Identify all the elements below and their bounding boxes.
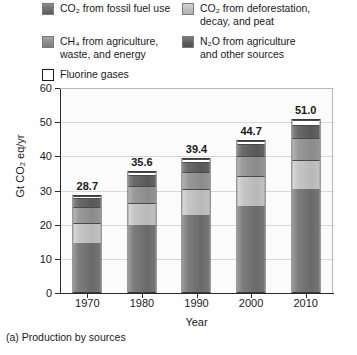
bar-total-label: 44.7 [240,125,261,137]
bar-group: 51.0 [278,88,333,293]
bars-layer: 28.7197035.6198039.4199044.7200051.02010 [60,88,333,293]
bar-segment[interactable] [183,172,210,189]
bar-segment[interactable] [128,225,155,292]
bar-segment[interactable] [74,198,101,207]
legend-item-co2-deforestation[interactable]: CO₂ from deforestation, decay, and peat [182,2,350,27]
x-axis-tick-label: 1980 [130,297,154,309]
bar-group: 44.7 [224,88,279,293]
y-axis-tick-label: 40 [40,150,52,162]
legend-item-ch4-agriculture[interactable]: CH₄ from agriculture, waste, and energy [42,35,182,60]
figure-panel: CO₂ from fossil fuel use CO₂ from defore… [0,0,357,355]
y-axis-tick-label: 0 [46,287,52,299]
bar-segment[interactable] [74,207,101,222]
x-axis-tick-label: 2000 [239,297,263,309]
x-axis-label: Year [60,316,333,328]
y-axis-tick-label: 60 [40,82,52,94]
bar-segment[interactable] [292,189,319,292]
legend-row-2: CH₄ from agriculture, waste, and energy … [42,35,354,60]
legend-item-n2o-agriculture[interactable]: N₂O from agriculture and other sources [182,35,350,60]
bar-segment[interactable] [183,215,210,292]
y-axis-tick-label: 20 [40,219,52,231]
y-axis-tick-label: 50 [40,116,52,128]
bar-segment[interactable] [238,156,265,176]
x-axis-tick-label: 1970 [75,297,99,309]
legend-label-co2-fossil: CO₂ from fossil fuel use [60,2,170,15]
stacked-bar[interactable] [182,158,211,293]
bar-segment[interactable] [238,144,265,156]
bar-segment[interactable] [292,138,319,160]
stacked-bar[interactable] [73,195,102,293]
chart-legend: CO₂ from fossil fuel use CO₂ from defore… [42,2,354,85]
y-axis-tick-label: 10 [40,253,52,265]
bar-total-label: 28.7 [77,180,98,192]
legend-row-1: CO₂ from fossil fuel use CO₂ from defore… [42,2,354,27]
legend-row-3: Fluorine gases [42,68,354,81]
stacked-bar[interactable] [291,119,320,293]
bar-group: 39.4 [169,88,224,293]
bar-total-label: 39.4 [186,143,207,155]
stacked-bar[interactable] [237,140,266,293]
bar-segment[interactable] [292,125,319,139]
bar-segment[interactable] [238,176,265,206]
y-axis-tick [55,293,61,294]
legend-swatch-n2o-icon [182,36,194,48]
bar-segment[interactable] [74,223,101,244]
bar-total-label: 51.0 [295,104,316,116]
bar-segment[interactable] [292,160,319,189]
legend-swatch-fluorine-icon [42,69,54,81]
y-axis-label: Gt CO₂ eq/yr [14,118,26,214]
legend-label-n2o-agriculture: N₂O from agriculture and other sources [200,35,296,60]
figure-caption: (a) Production by sources [6,331,126,343]
stacked-bar[interactable] [127,171,156,293]
bar-segment[interactable] [128,175,155,186]
x-axis-tick-label: 1990 [184,297,208,309]
legend-swatch-ch4-icon [42,36,54,48]
bar-segment[interactable] [128,203,155,225]
legend-label-fluorine-gases: Fluorine gases [60,68,129,81]
x-axis-tick-label: 2010 [293,297,317,309]
bar-segment[interactable] [74,243,101,292]
bar-segment[interactable] [238,206,265,292]
bar-segment[interactable] [128,186,155,203]
bar-group: 35.6 [115,88,170,293]
bar-total-label: 35.6 [131,156,152,168]
bar-segment[interactable] [183,162,210,172]
legend-swatch-co2-deforestation-icon [182,3,194,15]
bar-segment[interactable] [183,189,210,215]
legend-item-fluorine-gases[interactable]: Fluorine gases [42,68,182,81]
legend-swatch-co2-fossil-icon [42,3,54,15]
legend-label-co2-deforestation: CO₂ from deforestation, decay, and peat [200,2,310,27]
legend-item-co2-fossil[interactable]: CO₂ from fossil fuel use [42,2,182,27]
chart-plot-area: Gt CO₂ eq/yr 0102030405060 28.7197035.61… [0,88,357,310]
y-axis-tick-label: 30 [40,185,52,197]
legend-label-ch4-agriculture: CH₄ from agriculture, waste, and energy [60,35,158,60]
bar-group: 28.7 [60,88,115,293]
